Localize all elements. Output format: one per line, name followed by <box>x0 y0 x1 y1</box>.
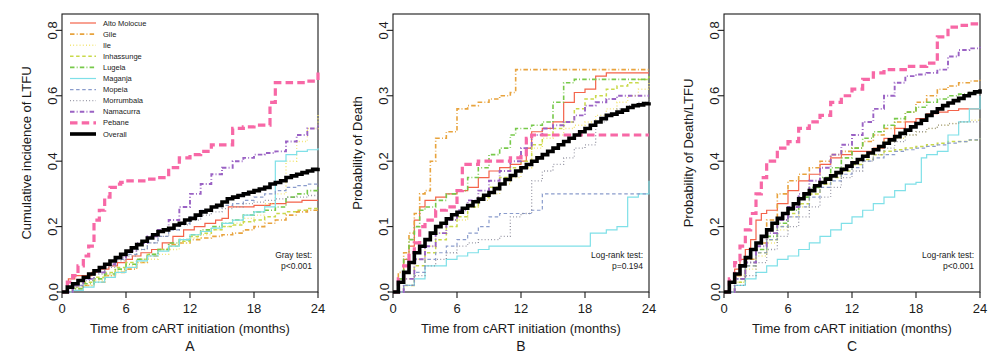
y-tick-label: 0.2 <box>46 218 61 236</box>
y-tick-label: 0.4 <box>46 152 61 170</box>
y-axis-title: Probability of Death/LTFU <box>681 79 696 228</box>
test-annotation-line: p=0.194 <box>612 261 643 271</box>
curve-namacurra <box>393 96 649 292</box>
y-tick-label: 0.2 <box>708 218 723 236</box>
legend-label-maganja: Maganja <box>103 74 133 83</box>
legend-label-alto-molocue: Alto Molocue <box>103 19 146 28</box>
legend: Alto MolocueGileIleInhassungeLugelaMagan… <box>70 19 146 139</box>
curve-overall <box>724 89 980 292</box>
y-tick-label: 0.6 <box>46 87 61 105</box>
y-tick-label: 0.4 <box>708 152 723 170</box>
x-tick-label: 0 <box>720 301 727 316</box>
x-tick-label: 18 <box>578 301 592 316</box>
y-axis-title: Probability of Death <box>350 96 365 209</box>
y-tick-label: 0.0 <box>46 283 61 301</box>
panel-letter: A <box>185 338 195 354</box>
legend-label-morrumbala: Morrumbala <box>103 96 144 105</box>
curve-lugela <box>724 91 980 292</box>
x-tick-label: 0 <box>58 301 65 316</box>
y-tick-label: 0.2 <box>377 152 392 170</box>
x-tick-label: 18 <box>247 301 261 316</box>
curve-alto-molocue <box>724 109 980 292</box>
legend-label-overall: Overall <box>103 130 127 139</box>
legend-label-pebane: Pebane <box>103 118 129 127</box>
panel-a-plot: 0.00.20.40.60.8Cumulative incidence of L… <box>0 0 331 355</box>
panel-c-plot: 0.00.20.40.60.8Probability of Death/LTFU… <box>662 0 994 355</box>
test-annotation-line: Log-rank test: <box>922 250 974 260</box>
curve-morrumbala <box>724 120 980 292</box>
x-tick-label: 6 <box>122 301 129 316</box>
panel-letter: B <box>516 338 525 354</box>
y-tick-label: 0.8 <box>708 21 723 39</box>
x-axis-title: Time from cART initiation (months) <box>90 321 290 336</box>
x-tick-label: 12 <box>183 301 197 316</box>
y-tick-label: 0.4 <box>377 21 392 39</box>
x-axis-title: Time from cART initiation (months) <box>421 321 621 336</box>
panel-a: 0.00.20.40.60.8Cumulative incidence of L… <box>0 0 331 355</box>
x-tick-label: 24 <box>973 301 987 316</box>
legend-label-ile: Ile <box>103 41 111 50</box>
panel-b: 0.00.10.20.30.4Probability of Death06121… <box>331 0 662 355</box>
y-tick-label: 0.8 <box>46 21 61 39</box>
survival-curves-figure: 0.00.20.40.60.8Cumulative incidence of L… <box>0 0 994 355</box>
legend-label-namacurra: Namacurra <box>103 107 141 116</box>
x-tick-label: 12 <box>514 301 528 316</box>
y-axis-title: Cumulative incidence of LTFU <box>19 66 34 239</box>
test-annotation-line: Log-rank test: <box>591 250 643 260</box>
y-tick-label: 0.1 <box>377 218 392 236</box>
y-tick-label: 0.0 <box>377 283 392 301</box>
curve-mopeia <box>393 194 649 292</box>
x-tick-label: 6 <box>453 301 460 316</box>
x-tick-label: 18 <box>909 301 923 316</box>
legend-label-gile: Gile <box>103 30 116 39</box>
test-annotation-line: Gray test: <box>275 250 312 260</box>
test-annotation-line: p<0.001 <box>943 261 974 271</box>
x-tick-label: 6 <box>784 301 791 316</box>
x-tick-label: 12 <box>845 301 859 316</box>
y-tick-label: 0.6 <box>708 87 723 105</box>
panel-c: 0.00.20.40.60.8Probability of Death/LTFU… <box>662 0 993 355</box>
x-axis-title: Time from cART initiation (months) <box>752 321 952 336</box>
curve-overall <box>393 102 649 292</box>
x-tick-label: 24 <box>642 301 656 316</box>
legend-label-mopeia: Mopeia <box>103 85 128 94</box>
x-tick-label: 0 <box>389 301 396 316</box>
panel-letter: C <box>847 338 857 354</box>
panel-b-plot: 0.00.10.20.30.4Probability of Death06121… <box>331 0 662 355</box>
curve-pebane <box>393 135 649 292</box>
y-tick-label: 0.0 <box>708 283 723 301</box>
test-annotation-line: p<0.001 <box>281 261 312 271</box>
x-tick-label: 24 <box>311 301 325 316</box>
legend-label-inhassunge: Inhassunge <box>103 52 142 61</box>
y-tick-label: 0.3 <box>377 87 392 105</box>
legend-label-lugela: Lugela <box>103 63 126 72</box>
